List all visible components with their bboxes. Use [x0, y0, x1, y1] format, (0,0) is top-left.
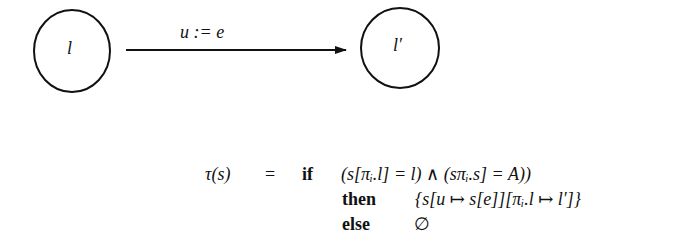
- transition-label: u := e: [180, 22, 224, 43]
- formula-equals: =: [265, 163, 275, 185]
- formula-lhs: τ(s): [205, 163, 230, 185]
- then-expression: {s[u ↦ s[e]][πᵢ.l ↦ l′]}: [415, 188, 581, 210]
- keyword-else: else: [342, 213, 370, 235]
- state-label-source: l: [67, 38, 72, 59]
- else-expression: ∅: [414, 213, 430, 235]
- condition-expression: (s[πᵢ.l] = l) ∧ (sπᵢ.s] = A)): [341, 163, 531, 185]
- keyword-if: if: [302, 163, 313, 185]
- transition-diagram: [0, 0, 673, 110]
- keyword-then: then: [342, 188, 376, 210]
- state-label-target: l′: [393, 35, 402, 56]
